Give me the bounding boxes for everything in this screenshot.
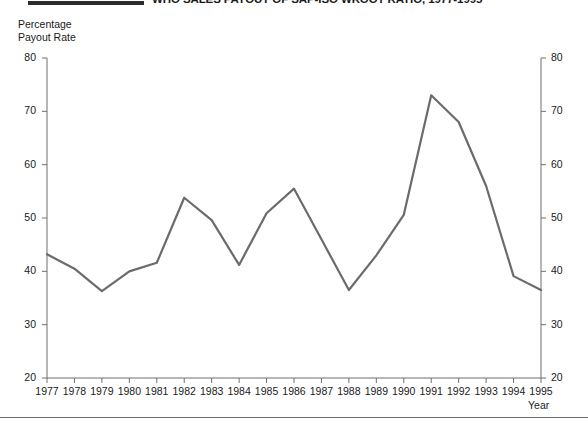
x-tick-label: 1983 [197,385,227,397]
chart-svg [0,0,588,422]
x-tick-label: 1977 [32,385,62,397]
y-tick-label-right: 40 [551,264,573,276]
y-tick-label-right: 70 [551,104,573,116]
data-series-line [47,95,541,291]
x-tick-label: 1992 [444,385,474,397]
y-tick-label-right: 80 [551,51,573,63]
y-tick-label-right: 30 [551,318,573,330]
line-chart-plot [0,0,588,422]
y-tick-label-left: 70 [14,104,36,116]
x-tick-label: 1988 [334,385,364,397]
y-tick-label-left: 40 [14,264,36,276]
x-tick-label: 1985 [252,385,282,397]
x-tick-label: 1979 [87,385,117,397]
x-tick-label: 1995 [526,385,556,397]
x-tick-label: 1978 [59,385,89,397]
y-tick-label-left: 80 [14,51,36,63]
x-tick-label: 1981 [142,385,172,397]
x-tick-label: 1984 [224,385,254,397]
x-tick-label: 1994 [499,385,529,397]
y-tick-label-left: 50 [14,211,36,223]
x-tick-label: 1982 [169,385,199,397]
y-tick-label-right: 60 [551,158,573,170]
x-tick-label: 1990 [389,385,419,397]
x-tick-label: 1987 [306,385,336,397]
y-tick-label-right: 50 [551,211,573,223]
x-tick-label: 1993 [471,385,501,397]
bottom-divider [0,417,588,418]
x-tick-label: 1991 [416,385,446,397]
ticks-group [42,58,546,383]
y-tick-label-left: 30 [14,318,36,330]
y-tick-label-left: 20 [14,371,36,383]
x-tick-label: 1980 [114,385,144,397]
x-tick-label: 1989 [361,385,391,397]
axes-group [47,58,541,378]
x-tick-label: 1986 [279,385,309,397]
y-tick-label-left: 60 [14,158,36,170]
y-tick-label-right: 20 [551,371,573,383]
